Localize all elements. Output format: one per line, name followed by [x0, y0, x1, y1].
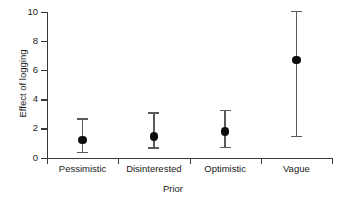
- y-tick-mark: [41, 70, 47, 71]
- x-tick-mark: [332, 158, 333, 164]
- x-category-label-disinterested: Disinterested: [118, 164, 189, 174]
- y-tick-label: 10: [12, 7, 38, 17]
- data-point-marker: [221, 127, 230, 136]
- error-bar-cap-upper: [220, 110, 231, 111]
- y-axis-line: [47, 12, 48, 159]
- error-bar-stem: [296, 11, 297, 136]
- y-tick-mark: [41, 99, 47, 100]
- data-point-marker: [78, 136, 87, 145]
- y-tick-mark: [41, 128, 47, 129]
- x-category-label-pessimistic: Pessimistic: [47, 164, 118, 174]
- error-bar-stem: [153, 112, 154, 147]
- x-category-label-vague: Vague: [261, 164, 332, 174]
- y-tick-mark: [41, 12, 47, 13]
- error-bar-cap-lower: [77, 152, 88, 153]
- error-bar-cap-upper: [148, 112, 159, 113]
- data-point-marker: [150, 132, 159, 141]
- y-tick-label: 0: [12, 153, 38, 163]
- error-bar-cap-lower: [291, 136, 302, 137]
- error-bar-cap-upper: [77, 118, 88, 119]
- x-category-label-optimistic: Optimistic: [190, 164, 261, 174]
- chart-figure: 0246810 PessimisticDisinterestedOptimist…: [0, 0, 346, 203]
- data-point-marker: [292, 56, 301, 65]
- error-bar-cap-lower: [148, 147, 159, 148]
- y-axis-title: Effect of logging: [17, 24, 28, 144]
- y-tick-mark: [41, 41, 47, 42]
- x-axis-title: Prior: [0, 183, 346, 194]
- error-bar-cap-upper: [291, 11, 302, 12]
- error-bar-cap-lower: [220, 147, 231, 148]
